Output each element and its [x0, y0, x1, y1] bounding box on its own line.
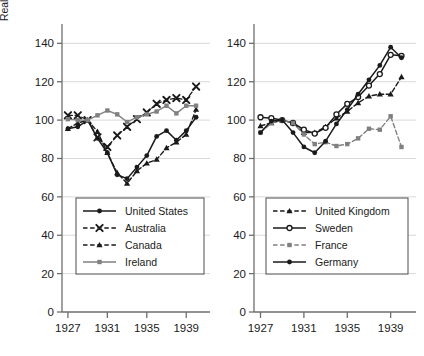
data-point-marker: [302, 132, 306, 136]
y-tick-label: 80: [233, 152, 246, 164]
legend-label: Germany: [315, 256, 359, 268]
data-point-marker: [323, 139, 328, 144]
series-line: [261, 77, 402, 133]
y-tick-label: 140: [35, 37, 54, 49]
data-point-marker: [388, 52, 393, 57]
chart-panel-right: 0204060801001201401927193119351939United…: [212, 0, 424, 356]
data-point-marker: [164, 104, 168, 108]
y-tick-label: 100: [35, 114, 54, 126]
data-point-marker: [301, 145, 306, 150]
data-point-marker: [164, 128, 169, 133]
y-tick-label: 100: [227, 114, 246, 126]
data-point-marker: [345, 107, 350, 112]
legend-label: United States: [125, 205, 188, 217]
data-point-marker: [366, 93, 372, 98]
data-point-marker: [291, 130, 296, 135]
data-point-marker: [114, 132, 120, 138]
data-point-marker: [388, 45, 393, 50]
data-point-marker: [97, 260, 101, 264]
data-point-marker: [144, 153, 149, 158]
data-point-marker: [378, 128, 382, 132]
y-tick-label: 80: [41, 152, 54, 164]
data-point-marker: [377, 63, 382, 68]
y-tick-label: 20: [233, 268, 246, 280]
data-series-group: [65, 83, 200, 185]
data-point-marker: [115, 112, 119, 116]
data-point-marker: [153, 101, 159, 107]
data-point-marker: [154, 134, 159, 139]
x-tick-label: 1935: [134, 322, 160, 334]
data-point-marker: [184, 104, 188, 108]
x-tick-label: 1939: [378, 322, 404, 334]
data-point-marker: [66, 117, 70, 121]
legend: United KingdomSwedenFranceGermany: [266, 198, 408, 274]
data-series-group: [257, 45, 404, 155]
data-point-marker: [367, 77, 372, 82]
series-ireland: [66, 104, 199, 125]
data-point-marker: [287, 260, 292, 265]
series-line: [68, 117, 196, 178]
x-tick-label: 1939: [173, 322, 199, 334]
data-point-marker: [163, 97, 169, 103]
data-point-marker: [356, 136, 360, 140]
series-line: [68, 87, 196, 147]
legend-label: United Kingdom: [315, 205, 390, 217]
y-tick-label: 20: [41, 268, 54, 280]
data-point-marker: [163, 145, 169, 150]
data-point-marker: [124, 124, 130, 130]
data-point-marker: [193, 83, 199, 89]
data-point-marker: [345, 142, 349, 146]
data-point-marker: [194, 104, 198, 108]
gdp-comparison-figure: Real GDP per capita (1929=100) 020406080…: [0, 0, 424, 356]
data-point-marker: [312, 131, 317, 136]
x-tick-label: 1935: [334, 322, 360, 334]
data-point-marker: [287, 243, 291, 247]
data-point-marker: [355, 100, 361, 105]
legend-label: Australia: [125, 222, 166, 234]
legend-label: Sweden: [315, 222, 353, 234]
data-point-marker: [105, 108, 109, 112]
x-tick-label: 1927: [55, 322, 81, 334]
axes: 0204060801001201401927193119351939: [227, 24, 416, 334]
legend-label: Canada: [125, 239, 162, 251]
y-tick-label: 40: [233, 229, 246, 241]
x-tick-label: 1931: [291, 322, 317, 334]
data-point-marker: [287, 226, 292, 231]
right-plot-svg: 0204060801001201401927193119351939United…: [212, 0, 424, 356]
series-line: [261, 47, 402, 153]
data-point-marker: [388, 114, 392, 118]
data-point-marker: [345, 101, 350, 106]
left-plot-svg: 0204060801001201401927193119351939United…: [0, 0, 212, 356]
data-point-marker: [323, 125, 328, 130]
data-point-marker: [367, 127, 371, 131]
y-tick-label: 0: [48, 306, 54, 318]
data-point-marker: [356, 92, 361, 97]
chart-panel-left: Real GDP per capita (1929=100) 020406080…: [0, 0, 212, 356]
data-point-marker: [334, 112, 339, 117]
data-point-marker: [366, 83, 371, 88]
data-point-marker: [125, 120, 129, 124]
data-point-marker: [85, 118, 89, 122]
y-tick-label: 60: [41, 191, 54, 203]
data-point-marker: [97, 209, 102, 214]
data-point-marker: [258, 130, 263, 135]
axes: 0204060801001201401927193119351939: [35, 24, 210, 334]
y-tick-label: 140: [227, 37, 246, 49]
series-united-states: [66, 115, 199, 181]
data-point-marker: [291, 121, 295, 125]
x-tick-label: 1927: [248, 322, 274, 334]
y-tick-label: 40: [41, 229, 54, 241]
legend-label: France: [315, 239, 348, 251]
data-point-marker: [399, 145, 403, 149]
data-point-marker: [280, 118, 285, 123]
data-point-marker: [313, 142, 317, 146]
data-point-marker: [312, 150, 317, 155]
data-point-marker: [76, 118, 80, 122]
series-germany: [258, 45, 404, 155]
x-tick-label: 1931: [95, 322, 121, 334]
data-point-marker: [174, 111, 178, 115]
data-point-marker: [95, 113, 99, 117]
y-tick-label: 120: [35, 76, 54, 88]
y-tick-label: 120: [227, 76, 246, 88]
data-point-marker: [334, 122, 339, 127]
